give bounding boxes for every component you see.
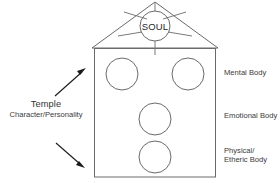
soul-ray-upper-left-icon	[124, 12, 147, 19]
lower-arrow-shaft	[56, 143, 80, 164]
upper-arrow-head-icon	[77, 68, 86, 75]
mental-body-circle-right	[172, 58, 204, 90]
upper-arrow-shaft	[55, 72, 82, 96]
soul-ray-lower-left-icon	[118, 32, 142, 36]
temple-title: Temple	[2, 99, 90, 110]
temple-wall-rect	[95, 49, 216, 178]
mental-body-circle-left	[106, 58, 138, 90]
label-physical-etheric-body: Physical/ Etheric Body	[224, 147, 267, 165]
diagram-canvas: SOUL Temple Character/Personality Mental…	[0, 0, 280, 183]
label-mental-body: Mental Body	[224, 69, 266, 78]
soul-label: SOUL	[142, 21, 169, 32]
label-emotional-body: Emotional Body	[224, 112, 277, 121]
soul-ray-lower-right-icon	[168, 32, 192, 36]
emotional-body-circle	[139, 103, 171, 135]
soul-ray-upper-right-icon	[163, 12, 186, 19]
temple-label-group: Temple Character/Personality	[2, 99, 90, 120]
temple-subtitle: Character/Personality	[2, 111, 90, 120]
physical-body-circle	[139, 141, 171, 173]
